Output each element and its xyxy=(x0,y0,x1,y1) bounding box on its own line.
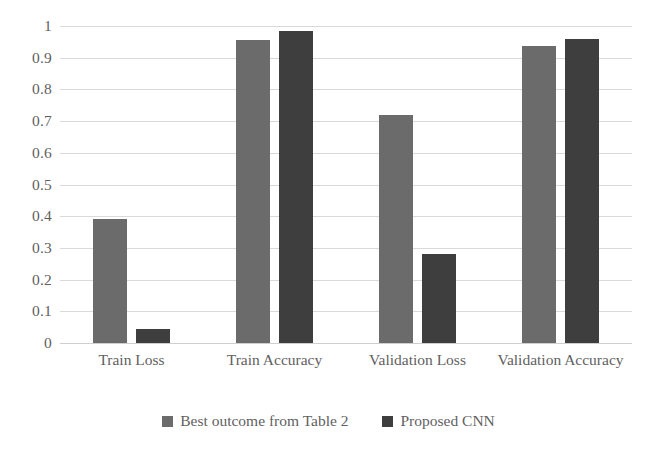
y-axis-tick-label: 0.6 xyxy=(0,144,52,162)
bar xyxy=(522,46,556,343)
gridline xyxy=(60,26,632,27)
legend-entry[interactable]: Proposed CNN xyxy=(382,412,494,430)
y-axis-tick-label: 0.2 xyxy=(0,271,52,289)
y-axis-tick-label: 0.3 xyxy=(0,239,52,257)
y-axis-tick-label: 0.8 xyxy=(0,80,52,98)
x-axis-category-label: Train Loss xyxy=(60,349,203,370)
y-axis-tick-label: 0.4 xyxy=(0,207,52,225)
x-axis-category-label: Validation Accuracy xyxy=(489,349,632,370)
x-axis-category-label: Validation Loss xyxy=(346,349,489,370)
legend-label: Proposed CNN xyxy=(400,412,494,430)
bar-chart-figure: 10.90.80.70.60.50.40.30.20.10 Train Loss… xyxy=(0,0,657,462)
bar xyxy=(422,254,456,343)
y-axis-tick-labels: 10.90.80.70.60.50.40.30.20.10 xyxy=(0,26,52,343)
bar xyxy=(279,31,313,343)
y-axis-tick-label: 0.5 xyxy=(0,176,52,194)
x-axis-category-labels: Train LossTrain AccuracyValidation LossV… xyxy=(60,349,632,404)
y-axis-tick-label: 0.9 xyxy=(0,49,52,67)
plot-area xyxy=(60,26,632,343)
bar xyxy=(565,39,599,343)
bar xyxy=(379,115,413,343)
legend-label: Best outcome from Table 2 xyxy=(180,412,348,430)
y-axis-tick-label: 0.1 xyxy=(0,302,52,320)
legend-entry[interactable]: Best outcome from Table 2 xyxy=(162,412,348,430)
bar xyxy=(236,40,270,343)
bar xyxy=(93,219,127,343)
legend-swatch-icon xyxy=(382,416,393,427)
chart-legend: Best outcome from Table 2Proposed CNN xyxy=(0,412,657,430)
axis-baseline xyxy=(60,343,632,344)
x-axis-category-label: Train Accuracy xyxy=(203,349,346,370)
y-axis-tick-label: 1 xyxy=(0,17,52,35)
y-axis-tick-label: 0.7 xyxy=(0,112,52,130)
bar xyxy=(136,329,170,343)
y-axis-tick-label: 0 xyxy=(0,334,52,352)
legend-swatch-icon xyxy=(162,416,173,427)
